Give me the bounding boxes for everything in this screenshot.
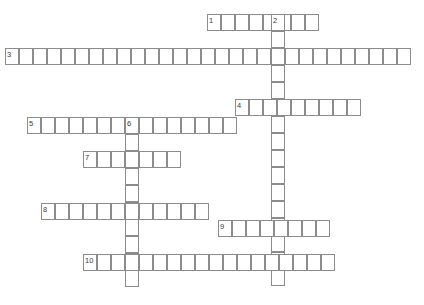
- crossword-cell[interactable]: [167, 203, 181, 220]
- crossword-cell[interactable]: [83, 117, 97, 134]
- crossword-cell[interactable]: [55, 203, 69, 220]
- crossword-cell[interactable]: [333, 99, 347, 116]
- crossword-cell[interactable]: [274, 220, 288, 237]
- crossword-cell[interactable]: [97, 203, 111, 220]
- crossword-cell[interactable]: [271, 65, 285, 82]
- crossword-cell[interactable]: [75, 48, 89, 65]
- crossword-cell[interactable]: [125, 168, 139, 185]
- crossword-cell[interactable]: [55, 117, 69, 134]
- crossword-cell[interactable]: [237, 254, 251, 271]
- crossword-cell[interactable]: [5, 48, 19, 65]
- crossword-cell[interactable]: [397, 48, 411, 65]
- crossword-cell[interactable]: [97, 151, 111, 168]
- crossword-cell[interactable]: [103, 48, 117, 65]
- crossword-cell[interactable]: [341, 48, 355, 65]
- crossword-cell[interactable]: [271, 14, 285, 31]
- crossword-cell[interactable]: [288, 220, 302, 237]
- crossword-cell[interactable]: [117, 48, 131, 65]
- crossword-cell[interactable]: [187, 48, 201, 65]
- crossword-cell[interactable]: [305, 14, 319, 31]
- crossword-cell[interactable]: [271, 133, 285, 150]
- crossword-cell[interactable]: [201, 48, 215, 65]
- crossword-cell[interactable]: [159, 48, 173, 65]
- crossword-cell[interactable]: [235, 99, 249, 116]
- crossword-cell[interactable]: [83, 203, 97, 220]
- crossword-cell[interactable]: [305, 99, 319, 116]
- crossword-cell[interactable]: [302, 220, 316, 237]
- crossword-cell[interactable]: [19, 48, 33, 65]
- crossword-cell[interactable]: [195, 203, 209, 220]
- crossword-cell[interactable]: [223, 254, 237, 271]
- crossword-cell[interactable]: [229, 48, 243, 65]
- crossword-cell[interactable]: [299, 48, 313, 65]
- crossword-cell[interactable]: [111, 254, 125, 271]
- crossword-cell[interactable]: [271, 269, 285, 286]
- crossword-cell[interactable]: [139, 151, 153, 168]
- crossword-cell[interactable]: [369, 48, 383, 65]
- crossword-cell[interactable]: [167, 151, 181, 168]
- crossword-cell[interactable]: [145, 48, 159, 65]
- crossword-cell[interactable]: [293, 254, 307, 271]
- crossword-cell[interactable]: [277, 99, 291, 116]
- crossword-cell[interactable]: [195, 117, 209, 134]
- crossword-cell[interactable]: [125, 185, 139, 202]
- crossword-cell[interactable]: [257, 48, 271, 65]
- crossword-cell[interactable]: [27, 117, 41, 134]
- crossword-cell[interactable]: [249, 99, 263, 116]
- crossword-cell[interactable]: [221, 14, 235, 31]
- crossword-cell[interactable]: [153, 254, 167, 271]
- crossword-cell[interactable]: [327, 48, 341, 65]
- crossword-cell[interactable]: [271, 31, 285, 48]
- crossword-cell[interactable]: [83, 151, 97, 168]
- crossword-cell[interactable]: [41, 117, 55, 134]
- crossword-cell[interactable]: [313, 48, 327, 65]
- crossword-cell[interactable]: [181, 203, 195, 220]
- crossword-cell[interactable]: [111, 151, 125, 168]
- crossword-cell[interactable]: [271, 184, 285, 201]
- crossword-cell[interactable]: [125, 117, 139, 134]
- crossword-cell[interactable]: [279, 254, 293, 271]
- crossword-cell[interactable]: [69, 117, 83, 134]
- crossword-cell[interactable]: [307, 254, 321, 271]
- crossword-cell[interactable]: [139, 254, 153, 271]
- crossword-cell[interactable]: [97, 254, 111, 271]
- crossword-cell[interactable]: [316, 220, 330, 237]
- crossword-cell[interactable]: [271, 150, 285, 167]
- crossword-cell[interactable]: [271, 235, 285, 252]
- crossword-cell[interactable]: [61, 48, 75, 65]
- crossword-cell[interactable]: [355, 48, 369, 65]
- crossword-cell[interactable]: [319, 99, 333, 116]
- crossword-cell[interactable]: [125, 134, 139, 151]
- crossword-cell[interactable]: [167, 117, 181, 134]
- crossword-cell[interactable]: [271, 201, 285, 218]
- crossword-cell[interactable]: [260, 220, 274, 237]
- crossword-cell[interactable]: [265, 254, 279, 271]
- crossword-cell[interactable]: [153, 117, 167, 134]
- crossword-cell[interactable]: [347, 99, 361, 116]
- crossword-cell[interactable]: [218, 220, 232, 237]
- crossword-cell[interactable]: [111, 117, 125, 134]
- crossword-cell[interactable]: [383, 48, 397, 65]
- crossword-cell[interactable]: [153, 151, 167, 168]
- crossword-cell[interactable]: [271, 167, 285, 184]
- crossword-cell[interactable]: [246, 220, 260, 237]
- crossword-cell[interactable]: [251, 254, 265, 271]
- crossword-cell[interactable]: [125, 219, 139, 236]
- crossword-cell[interactable]: [235, 14, 249, 31]
- crossword-cell[interactable]: [167, 254, 181, 271]
- crossword-cell[interactable]: [89, 48, 103, 65]
- crossword-cell[interactable]: [285, 48, 299, 65]
- crossword-cell[interactable]: [291, 14, 305, 31]
- crossword-cell[interactable]: [291, 99, 305, 116]
- crossword-cell[interactable]: [47, 48, 61, 65]
- crossword-cell[interactable]: [249, 14, 263, 31]
- crossword-cell[interactable]: [209, 117, 223, 134]
- crossword-cell[interactable]: [97, 117, 111, 134]
- crossword-cell[interactable]: [181, 117, 195, 134]
- crossword-cell[interactable]: [125, 270, 139, 287]
- crossword-cell[interactable]: [139, 203, 153, 220]
- crossword-cell[interactable]: [263, 99, 277, 116]
- crossword-cell[interactable]: [271, 116, 285, 133]
- crossword-cell[interactable]: [69, 203, 83, 220]
- crossword-cell[interactable]: [209, 254, 223, 271]
